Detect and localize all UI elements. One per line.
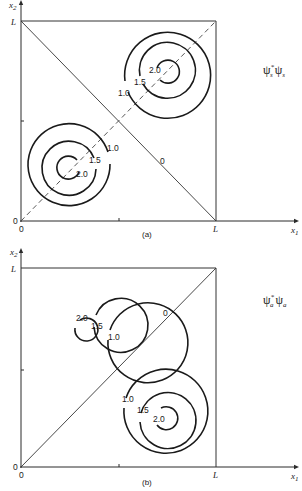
origin-y-label: 0 (13, 216, 18, 226)
panel-caption-a: (a) (142, 230, 152, 239)
x-axis-label: x1 (290, 225, 299, 237)
contour-group-upper-right (125, 32, 211, 118)
x-end-label: L (212, 224, 218, 234)
panel-b-plot: 2.0 1.5 1.0 2.0 1.5 1.0 0 x2 L 0 0 L x1 … (0, 245, 302, 491)
panel-caption-b: (b) (142, 478, 152, 487)
x-axis-label: x1 (290, 471, 299, 483)
origin-x-label: 0 (19, 470, 24, 480)
y-axis-arrow-icon (19, 248, 23, 253)
label-upper-2.0: 2.0 (149, 65, 161, 75)
origin-y-label: 0 (13, 462, 18, 472)
y-end-label: L (10, 264, 16, 274)
y-axis-label: x2 (9, 247, 18, 259)
label-upper-1.0: 1.0 (118, 88, 130, 98)
label-upper-1.5: 1.5 (134, 77, 146, 87)
contour-1.5 (140, 393, 196, 449)
contour-1.5 (139, 42, 195, 98)
label-nodal-0: 0 (160, 156, 165, 166)
x-end-label: L (212, 470, 218, 480)
label-lower-1.5: 1.5 (89, 155, 101, 165)
label-lower-1.0: 1.0 (107, 143, 119, 153)
label-lower-2.0: 2.0 (76, 169, 88, 179)
function-label-a: ψ*sψs (263, 63, 285, 79)
x-axis-arrow-icon (294, 465, 299, 469)
y-end-label: L (10, 17, 16, 27)
label-lower-1.5: 1.5 (137, 405, 149, 415)
y-axis-arrow-icon (19, 0, 23, 5)
panel-a-plot: 2.0 1.5 1.0 2.0 1.5 1.0 0 x2 L 0 0 L x1 … (0, 0, 302, 245)
function-label-b: ψ*aψa (263, 293, 287, 309)
y-axis-label: x2 (8, 0, 17, 12)
origin-x-label: 0 (19, 224, 24, 234)
label-nodal-0: 0 (163, 308, 168, 318)
label-upper-2.0: 2.0 (76, 313, 88, 323)
label-lower-2.0: 2.0 (153, 414, 165, 424)
x-axis-arrow-icon (294, 219, 299, 223)
contour-1.0 (125, 32, 211, 118)
label-lower-1.0: 1.0 (122, 394, 134, 404)
label-upper-1.5: 1.5 (91, 321, 103, 331)
label-upper-1.0: 1.0 (108, 332, 120, 342)
contour-1.5 (42, 141, 96, 195)
